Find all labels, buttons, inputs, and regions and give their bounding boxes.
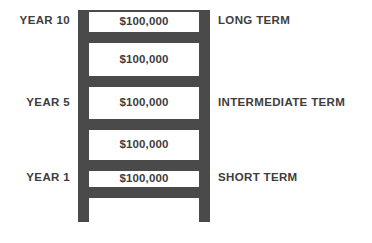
step-amount: $100,000 — [120, 173, 169, 185]
step-amount: $100,000 — [120, 16, 169, 28]
year-label: YEAR 5 — [26, 97, 70, 109]
ladder-rung — [78, 76, 210, 87]
step-amount: $100,000 — [120, 54, 169, 66]
ladder-step: $100,000 — [89, 12, 199, 32]
term-label: INTERMEDIATE TERM — [218, 97, 345, 109]
ladder-rung — [78, 160, 210, 171]
ladder-rung — [78, 32, 210, 43]
ladder-diagram: $100,000$100,000$100,000$100,000$100,000… — [0, 0, 372, 243]
term-label: LONG TERM — [218, 15, 290, 27]
ladder-step: $100,000 — [89, 43, 199, 76]
step-amount: $100,000 — [120, 139, 169, 151]
ladder-rung — [78, 119, 210, 130]
ladder-step: $100,000 — [89, 171, 199, 187]
ladder-step: $100,000 — [89, 130, 199, 160]
year-label: YEAR 1 — [26, 172, 70, 184]
ladder-step: $100,000 — [89, 87, 199, 119]
step-amount: $100,000 — [120, 97, 169, 109]
term-label: SHORT TERM — [218, 172, 298, 184]
year-label: YEAR 10 — [20, 15, 70, 27]
ladder-rung — [78, 187, 210, 198]
